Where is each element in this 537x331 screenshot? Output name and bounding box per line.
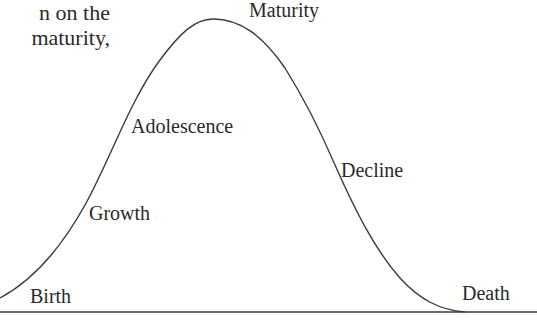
- stage-label-death: Death: [462, 282, 510, 304]
- stage-label-adolescence: Adolescence: [131, 115, 233, 137]
- stage-label-decline: Decline: [341, 159, 403, 181]
- stage-label-growth: Growth: [89, 202, 150, 224]
- stage-label-birth: Birth: [30, 285, 71, 307]
- life-cycle-curve-diagram: [0, 0, 537, 331]
- stage-label-maturity: Maturity: [249, 0, 319, 21]
